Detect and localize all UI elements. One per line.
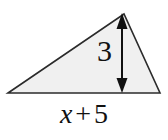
geometry-figure: 3 x+5 xyxy=(0,0,168,140)
triangle-shape xyxy=(8,14,160,93)
base-operator-sign: + xyxy=(73,98,94,129)
base-variable-term: x xyxy=(60,98,73,129)
base-constant-term: 5 xyxy=(94,98,108,129)
base-measurement-label: x+5 xyxy=(0,100,168,128)
height-measurement-label: 3 xyxy=(97,36,112,66)
